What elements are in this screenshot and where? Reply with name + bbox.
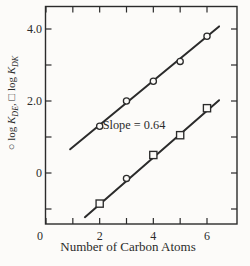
figure-background [0, 0, 250, 266]
slope-annotation: Slope = 0.64 [103, 118, 166, 132]
data-point-circle [150, 78, 156, 84]
data-point-circle [204, 33, 210, 39]
y-axis-label-segment: DE [11, 106, 20, 118]
y-axis-label-segment: , □ log [5, 74, 17, 106]
data-point-circle [123, 98, 129, 104]
y-tick-label: 0 [36, 166, 42, 180]
data-point-circle [177, 58, 183, 64]
data-point-circle [123, 175, 129, 181]
carbon-atoms-chart: 02464.02.00 Slope = 0.64 Number of Carbo… [0, 0, 250, 266]
data-point-square [177, 132, 184, 139]
x-tick-label: 0 [37, 229, 43, 243]
x-tick-label: 6 [204, 229, 210, 243]
data-point-square [203, 105, 210, 112]
y-tick-label: 2.0 [27, 94, 42, 108]
data-point-square [150, 151, 157, 158]
data-point-square [96, 200, 103, 207]
x-axis-label: Number of Carbon Atoms [60, 239, 195, 254]
y-tick-label: 4.0 [27, 22, 42, 36]
y-axis-label-segment: ○ log [5, 124, 17, 150]
figure-page: 02464.02.00 Slope = 0.64 Number of Carbo… [0, 0, 250, 266]
y-axis-label-segment: DK [11, 55, 20, 68]
